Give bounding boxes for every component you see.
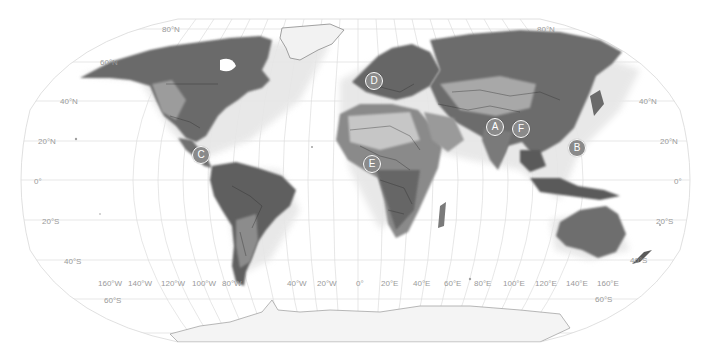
svg-text:40°N: 40°N (639, 97, 657, 106)
svg-text:40°N: 40°N (60, 97, 78, 106)
svg-text:80°N: 80°N (162, 25, 180, 34)
map-marker-a[interactable]: A (486, 118, 504, 136)
svg-text:40°S: 40°S (64, 257, 81, 266)
map-marker-f[interactable]: F (512, 120, 530, 138)
svg-text:80°E: 80°E (474, 279, 491, 288)
svg-text:20°N: 20°N (660, 137, 678, 146)
svg-text:100°W: 100°W (192, 279, 217, 288)
svg-text:160°E: 160°E (597, 279, 619, 288)
svg-text:140°E: 140°E (566, 279, 588, 288)
svg-text:60°N: 60°N (100, 58, 118, 67)
svg-text:100°E: 100°E (503, 279, 525, 288)
svg-text:60°S: 60°S (104, 296, 121, 305)
svg-text:60°S: 60°S (595, 295, 612, 304)
map-marker-e[interactable]: E (363, 155, 381, 173)
svg-text:0°: 0° (356, 279, 364, 288)
world-map: 80°N 60°N 40°N 20°N 0° 20°S 40°S 60°S 80… (0, 0, 711, 359)
svg-text:20°W: 20°W (317, 279, 337, 288)
svg-text:40°E: 40°E (413, 279, 430, 288)
svg-text:120°W: 120°W (161, 279, 186, 288)
svg-text:140°W: 140°W (128, 279, 153, 288)
svg-text:80°N: 80°N (537, 25, 555, 34)
svg-text:0°: 0° (674, 177, 682, 186)
svg-text:120°E: 120°E (535, 279, 557, 288)
map-marker-d[interactable]: D (365, 72, 383, 90)
svg-text:60°E: 60°E (444, 279, 461, 288)
svg-text:20°S: 20°S (42, 217, 59, 226)
svg-text:160°W: 160°W (98, 279, 123, 288)
svg-text:20°S: 20°S (656, 217, 673, 226)
svg-text:80°W: 80°W (222, 279, 242, 288)
map-marker-c[interactable]: C (192, 146, 210, 164)
svg-text:0°: 0° (34, 177, 42, 186)
svg-text:20°E: 20°E (381, 279, 398, 288)
svg-text:20°N: 20°N (38, 137, 56, 146)
svg-text:40°S: 40°S (630, 256, 647, 265)
map-marker-b[interactable]: B (568, 139, 586, 157)
longitude-labels: 160°W 140°W 120°W 100°W 80°W 40°W 20°W 0… (98, 279, 619, 288)
svg-text:40°W: 40°W (287, 279, 307, 288)
